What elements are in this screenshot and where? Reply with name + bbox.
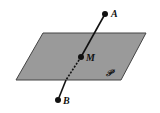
point-a [102,11,108,17]
point-b [55,97,61,103]
label-m: M [85,52,96,63]
diagram-canvas: A M B 𝒫 [0,0,160,113]
point-m [78,54,84,60]
label-b: B [62,95,70,106]
label-a: A [110,8,118,19]
